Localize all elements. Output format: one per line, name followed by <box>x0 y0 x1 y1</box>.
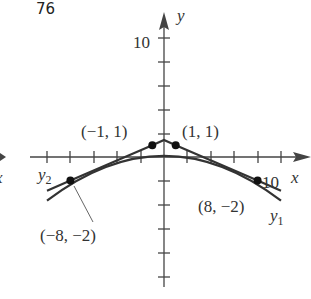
leader-line <box>74 186 93 222</box>
point-neg1-1 <box>148 141 156 149</box>
graph: y 10 10 x x (−1, 1) (1, 1) (8, −2) (−8, … <box>0 0 311 299</box>
label-point-neg1-1: (−1, 1) <box>81 122 127 141</box>
x-tick-label-10: 10 <box>262 173 279 192</box>
label-y1: y1 <box>268 206 284 228</box>
point-8-neg2 <box>254 177 262 185</box>
y-axis-label: y <box>175 6 185 25</box>
y-tick-label-10: 10 <box>133 33 150 52</box>
label-point-neg8-neg2: (−8, −2) <box>40 226 96 245</box>
y-axis <box>158 12 170 287</box>
label-point-1-1: (1, 1) <box>182 122 219 141</box>
clipped-x-label: x <box>0 168 3 187</box>
point-neg8-neg2 <box>66 177 74 185</box>
x-axis-label: x <box>290 168 299 187</box>
point-1-1 <box>172 141 180 149</box>
label-point-8-neg2: (8, −2) <box>198 197 244 216</box>
label-y2: y2 <box>36 165 52 187</box>
clipped-arrow-icon <box>0 153 6 161</box>
